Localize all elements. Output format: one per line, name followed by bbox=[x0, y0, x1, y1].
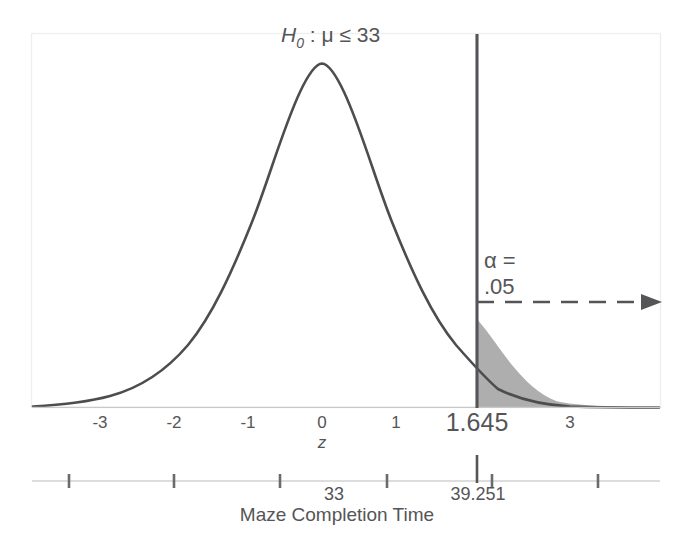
alpha-label-line1: α = bbox=[484, 248, 516, 273]
hypothesis-mu-symbol: μ bbox=[321, 23, 333, 46]
rejection-region-shading bbox=[477, 319, 660, 407]
arrow-head-icon bbox=[641, 294, 662, 310]
z-axis-label: z bbox=[317, 433, 327, 452]
chart-svg: H0 : μ ≤ 33 α = .05 -3 -2 -1 0 1 3 1.645… bbox=[0, 0, 687, 534]
z-tick-label-0: 0 bbox=[317, 413, 326, 432]
hypothesis-test-figure: H0 : μ ≤ 33 α = .05 -3 -2 -1 0 1 3 1.645… bbox=[0, 0, 687, 534]
z-tick-label-neg2: -2 bbox=[166, 413, 181, 432]
raw-axis-center-label: 33 bbox=[324, 484, 344, 504]
hypothesis-value: 33 bbox=[357, 23, 380, 46]
z-tick-label-neg1: -1 bbox=[240, 413, 255, 432]
null-hypothesis-label: H0 : μ ≤ 33 bbox=[281, 23, 380, 51]
raw-critical-value-label: 39.251 bbox=[450, 484, 505, 504]
raw-axis-title: Maze Completion Time bbox=[240, 504, 434, 525]
plot-frame bbox=[32, 34, 661, 408]
hypothesis-h-symbol: H bbox=[281, 23, 297, 46]
hypothesis-separator: : bbox=[304, 23, 322, 46]
z-tick-label-neg3: -3 bbox=[92, 413, 107, 432]
z-tick-label-1: 1 bbox=[391, 413, 400, 432]
normal-distribution-curve bbox=[33, 64, 659, 408]
critical-value-label: 1.645 bbox=[446, 408, 509, 436]
z-tick-label-3: 3 bbox=[565, 413, 574, 432]
hypothesis-relation: ≤ bbox=[334, 23, 357, 46]
hypothesis-subscript: 0 bbox=[296, 35, 304, 51]
alpha-label-line2: .05 bbox=[484, 274, 515, 299]
